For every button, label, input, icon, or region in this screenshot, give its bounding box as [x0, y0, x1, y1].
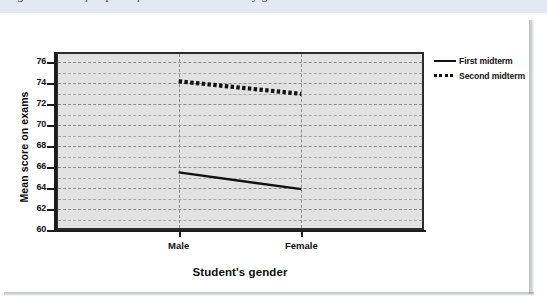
chart-legend: First midterm Second midterm: [434, 54, 530, 84]
gridline-vertical: [301, 54, 302, 228]
y-axis-tick: [47, 188, 55, 190]
cut-off-caption-text: Figure 9.4 Profile plot of mean exam sco…: [6, 0, 300, 3]
gridline-major: [58, 83, 422, 84]
x-axis-title: Student's gender: [56, 266, 424, 278]
y-axis-tick: [47, 104, 55, 106]
gridline-minor: [58, 220, 422, 221]
gridline-major: [58, 209, 422, 210]
legend-item-first-midterm: First midterm: [434, 54, 530, 67]
figure-page: Figure 9.4 Profile plot of mean exam sco…: [0, 0, 547, 302]
gridline-major: [58, 104, 422, 105]
page-top-strip: Figure 9.4 Profile plot of mean exam sco…: [0, 0, 547, 13]
gridline-major: [58, 188, 422, 189]
gridline-minor: [58, 115, 422, 116]
gridline-minor: [58, 157, 422, 158]
y-axis-tick: [47, 209, 55, 211]
gridline-minor: [58, 178, 422, 179]
gridline-minor: [58, 199, 422, 200]
gridline-vertical: [179, 54, 180, 228]
legend-label-second-midterm: Second midterm: [459, 71, 525, 81]
y-axis-line: [54, 52, 57, 231]
y-axis-tick: [47, 146, 55, 148]
legend-item-second-midterm: Second midterm: [434, 69, 530, 82]
gridline-minor: [58, 136, 422, 137]
dotted-line-swatch: [434, 70, 456, 82]
gridline-minor: [58, 94, 422, 95]
y-axis-tick: [47, 83, 55, 85]
gridline-minor: [58, 73, 422, 74]
y-axis-tick: [47, 167, 55, 169]
x-axis-line: [54, 230, 426, 232]
x-axis-tick: [301, 230, 303, 237]
gridline-major: [58, 167, 422, 168]
solid-line-swatch: [434, 55, 456, 67]
gridline-major: [58, 125, 422, 126]
plot-area: [56, 52, 424, 230]
y-axis-tick: [47, 230, 55, 232]
y-axis-title: Mean score on exams: [18, 57, 30, 237]
gridline-major: [58, 146, 422, 147]
legend-label-first-midterm: First midterm: [459, 56, 513, 66]
x-axis-category-label: Male: [134, 240, 224, 251]
y-axis-tick: [47, 125, 55, 127]
gridline-major: [58, 62, 422, 63]
y-axis-tick: [47, 62, 55, 64]
x-axis-category-label: Female: [256, 240, 346, 251]
x-axis-tick: [179, 230, 181, 237]
profile-plot-chart: 606264666870727476 Mean score on exams S…: [0, 14, 531, 293]
